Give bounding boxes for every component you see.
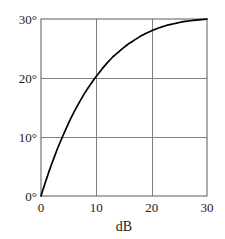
- chart-container: 0° 10° 20° 30° 0 10 20 30 dB: [0, 0, 225, 239]
- y-axis-tick-label: 20°: [19, 72, 37, 85]
- x-axis-tick-label: 30: [192, 201, 222, 214]
- y-axis-tick-label: 10°: [19, 131, 37, 144]
- y-axis-tick-label: 30°: [19, 13, 37, 26]
- x-axis-title: dB: [41, 220, 207, 234]
- x-axis-tick-label: 10: [81, 201, 111, 214]
- plot-background: [41, 19, 207, 196]
- x-axis-tick-label: 20: [137, 201, 167, 214]
- x-axis-tick-label: 0: [26, 201, 56, 214]
